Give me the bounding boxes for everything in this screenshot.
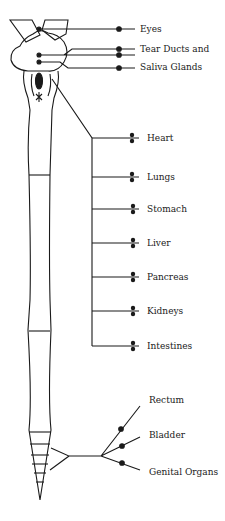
label-saliva-glands: Saliva Glands bbox=[140, 62, 202, 73]
ganglion-dots bbox=[130, 133, 135, 351]
brain-shape bbox=[11, 31, 67, 71]
cross-marker bbox=[36, 92, 42, 102]
label-heart: Heart bbox=[147, 133, 173, 144]
label-pancreas: Pancreas bbox=[147, 272, 188, 283]
label-bladder: Bladder bbox=[149, 430, 185, 441]
label-liver: Liver bbox=[147, 238, 171, 249]
label-eyes: Eyes bbox=[140, 24, 162, 35]
label-tear-ducts: Tear Ducts and bbox=[140, 44, 209, 55]
spinal-diagram bbox=[0, 0, 225, 521]
medulla-nucleus bbox=[36, 73, 43, 89]
label-intestines: Intestines bbox=[147, 341, 192, 352]
label-rectum: Rectum bbox=[149, 395, 184, 406]
label-genital-organs: Genital Organs bbox=[149, 467, 218, 478]
label-stomach: Stomach bbox=[147, 204, 187, 215]
label-kidneys: Kidneys bbox=[147, 306, 183, 317]
eye-shape-right bbox=[42, 20, 68, 40]
spinal-cord-outline bbox=[28, 110, 52, 500]
sacral-segments bbox=[29, 432, 51, 482]
label-lungs: Lungs bbox=[147, 172, 175, 183]
